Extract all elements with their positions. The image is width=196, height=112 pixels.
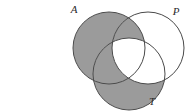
venn-diagram: A P T [0, 0, 196, 112]
circle-label-A: A [70, 3, 78, 15]
venn-figure: AAA–1 [0, 0, 196, 112]
circle-label-P: P [172, 5, 180, 17]
circle-label-T: T [149, 95, 156, 107]
